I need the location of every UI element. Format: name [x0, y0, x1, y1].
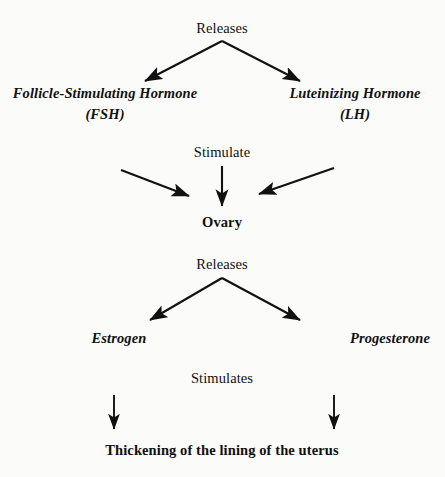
arrow-layer — [0, 0, 445, 477]
arrow-ovary-to-progesterone — [222, 278, 300, 320]
arrow-releases-to-fsh — [145, 41, 222, 81]
lh-abbreviation: (LH) — [289, 106, 420, 124]
node-uterine-lining-thickening: Thickening of the lining of the uterus — [105, 442, 338, 460]
fsh-name: Follicle-Stimulating Hormone — [13, 85, 197, 101]
arrow-fsh-to-ovary — [121, 170, 189, 196]
label-stimulate: Stimulate — [194, 144, 250, 162]
arrow-lh-to-ovary — [259, 168, 334, 194]
arrow-ovary-to-estrogen — [150, 278, 222, 320]
label-releases-top: Releases — [196, 20, 248, 38]
node-progesterone: Progesterone — [350, 330, 430, 348]
hormone-cascade-diagram: Releases Follicle-Stimulating Hormone (F… — [0, 0, 445, 477]
node-estrogen: Estrogen — [92, 330, 147, 348]
label-releases-ovary: Releases — [196, 256, 248, 274]
fsh-abbreviation: (FSH) — [13, 106, 197, 124]
label-stimulates: Stimulates — [191, 370, 253, 388]
node-luteinizing-hormone: Luteinizing Hormone (LH) — [289, 85, 420, 123]
arrow-releases-to-lh — [222, 41, 300, 81]
lh-name: Luteinizing Hormone — [289, 85, 420, 101]
node-ovary: Ovary — [202, 214, 242, 232]
node-follicle-stimulating-hormone: Follicle-Stimulating Hormone (FSH) — [13, 85, 197, 123]
